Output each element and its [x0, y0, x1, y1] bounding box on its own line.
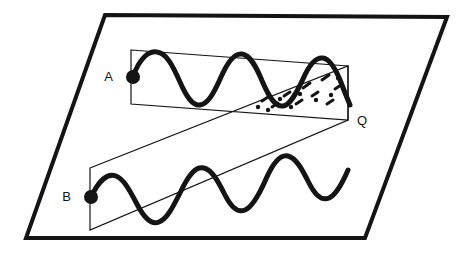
label-q: Q — [357, 113, 367, 128]
interference-dot — [298, 92, 302, 96]
source-dot-b — [84, 190, 98, 204]
interference-dot — [256, 105, 260, 109]
figure-background — [0, 0, 463, 253]
interference-dot — [336, 76, 340, 80]
label-a: A — [104, 69, 113, 84]
figure-canvas: A B Q — [0, 0, 463, 253]
source-dot-a — [126, 70, 140, 84]
label-b: B — [62, 189, 71, 204]
interference-dot — [278, 97, 282, 101]
interference-dot — [289, 105, 293, 109]
interference-dot — [329, 93, 333, 97]
wave-interference-figure: A B Q — [0, 0, 463, 253]
interference-dot — [266, 108, 270, 112]
interference-dot — [314, 98, 318, 102]
